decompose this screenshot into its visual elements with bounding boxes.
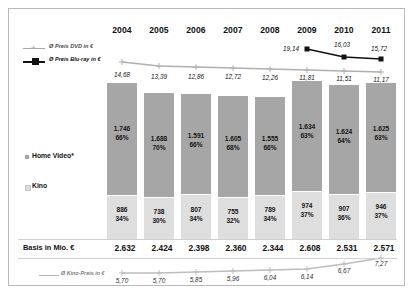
chart-plot-area: 2004 2005 2006 2007 2008 2009 2010 2011 … [9,9,406,287]
basis-value: 2.531 [329,243,365,253]
kino-percent: 32% [218,217,248,225]
basis-row-label: Basis in Mio. € [23,243,74,252]
kino-percent: 34% [181,215,211,223]
basis-value: 2.571 [366,243,402,253]
home-video-value: 1.746 [107,125,137,133]
kino-value: 738 [144,208,174,216]
kino-percent: 34% [255,215,285,223]
home-video-percent: 63% [366,134,396,142]
kino-price-value: 5,85 [176,276,216,283]
home-video-percent: 64% [329,137,359,145]
kino-percent: 37% [366,212,396,220]
divider-bottom [18,258,397,259]
kino-price-value: 7,27 [361,260,401,267]
kino-swatch-icon [25,185,31,191]
legend-line-kino-price [39,275,59,276]
home-video-percent: 66% [181,141,211,149]
kino-percent: 37% [292,211,322,219]
home-video-value: 1.555 [255,135,285,143]
legend-label-kino-price: Ø Kino-Preis in € [61,270,104,276]
kino-price-value: 5,70 [102,277,142,284]
basis-value: 2.632 [107,243,143,253]
kino-value: 974 [292,202,322,210]
home-video-percent: 63% [292,132,322,140]
kino-price-value: 6,14 [287,273,327,280]
kino-value: 946 [366,203,396,211]
kino-value: 755 [218,208,248,216]
kino-price-value: 6,04 [250,274,290,281]
home-video-percent: 66% [255,144,285,152]
kino-price-value: 6,67 [324,267,364,274]
home-video-value: 1.688 [144,135,174,143]
home-video-percent: 68% [218,144,248,152]
home-video-percent: 66% [107,134,137,142]
kino-percent: 36% [329,214,359,222]
basis-value: 2.424 [144,243,180,253]
kino-value: 807 [181,206,211,214]
basis-value: 2.344 [255,243,291,253]
home-video-value: 1.605 [218,135,248,143]
kino-price-value: 5,96 [213,275,253,282]
basis-value: 2.608 [292,243,328,253]
kino-percent: 34% [107,215,137,223]
kino-price-value: 5,70 [139,277,179,284]
basis-value: 2.360 [218,243,254,253]
home-video-swatch-icon [25,155,29,159]
kino-value: 789 [255,206,285,214]
divider-top [18,239,397,240]
row-label-home-video: Home Video* [32,152,74,159]
home-video-value: 1.634 [292,123,322,131]
home-video-percent: 70% [144,144,174,152]
home-video-value: 1.625 [366,125,396,133]
row-label-kino: Kino [32,182,47,189]
kino-percent: 30% [144,217,174,225]
chart-frame: 2004 2005 2006 2007 2008 2009 2010 2011 … [8,8,405,286]
home-video-value: 1.624 [329,128,359,136]
home-video-value: 1.591 [181,132,211,140]
kino-value: 907 [329,205,359,213]
basis-value: 2.398 [181,243,217,253]
kino-value: 886 [107,206,137,214]
